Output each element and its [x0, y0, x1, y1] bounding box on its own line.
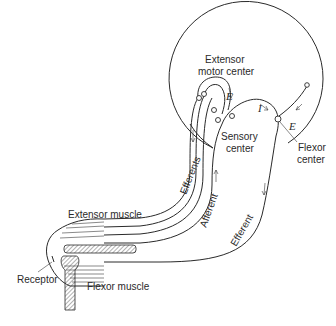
reflex-arc-diagram: Extensor motor center Sensory center Fle… [0, 0, 336, 326]
label-excitatory-e2: E [288, 120, 296, 132]
label-receptor: Receptor [17, 274, 58, 285]
label-inhibitory-i: I [257, 102, 263, 114]
synapse-nodes [197, 92, 282, 123]
label-flexor-center-1: Flexor [298, 142, 326, 153]
label-flexor-muscle: Flexor muscle [87, 281, 150, 292]
synapse-node [305, 83, 310, 88]
receptor-mark [52, 256, 54, 262]
receptor-leader [38, 262, 52, 272]
limb-joint [38, 219, 136, 310]
label-flexor-center-2: center [297, 154, 325, 165]
label-afferent: Afferent [198, 192, 220, 229]
label-excitatory-e1: E [225, 90, 233, 102]
label-extensor-motor-center-2: motor center [198, 66, 255, 77]
excitatory-path-flexor [279, 83, 309, 116]
label-efferent: Efferent [228, 212, 255, 248]
label-extensor-muscle: Extensor muscle [68, 209, 142, 220]
label-sensory-center-2: center [226, 143, 254, 154]
label-extensor-motor-center-1: Extensor [205, 54, 245, 65]
upper-bone [64, 245, 136, 253]
label-sensory-center-1: Sensory [221, 131, 258, 142]
label-efferents: Efferents [178, 155, 203, 196]
